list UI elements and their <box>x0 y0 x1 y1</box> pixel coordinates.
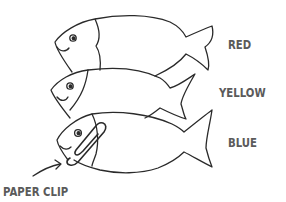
fish-drawing <box>0 0 286 202</box>
blue-fish <box>57 110 212 173</box>
fish-label-yellow: YELLOW <box>219 86 266 99</box>
fish-label-red: RED <box>228 38 251 51</box>
paper-clip-icon <box>67 123 106 166</box>
fish-diagram: RED YELLOW BLUE PAPER CLIP <box>0 0 286 202</box>
red-fish <box>55 16 213 76</box>
fish-label-blue: BLUE <box>228 136 257 149</box>
paper-clip-label: PAPER CLIP <box>3 185 68 198</box>
yellow-fish <box>51 69 195 119</box>
arrow-icon <box>33 160 61 176</box>
